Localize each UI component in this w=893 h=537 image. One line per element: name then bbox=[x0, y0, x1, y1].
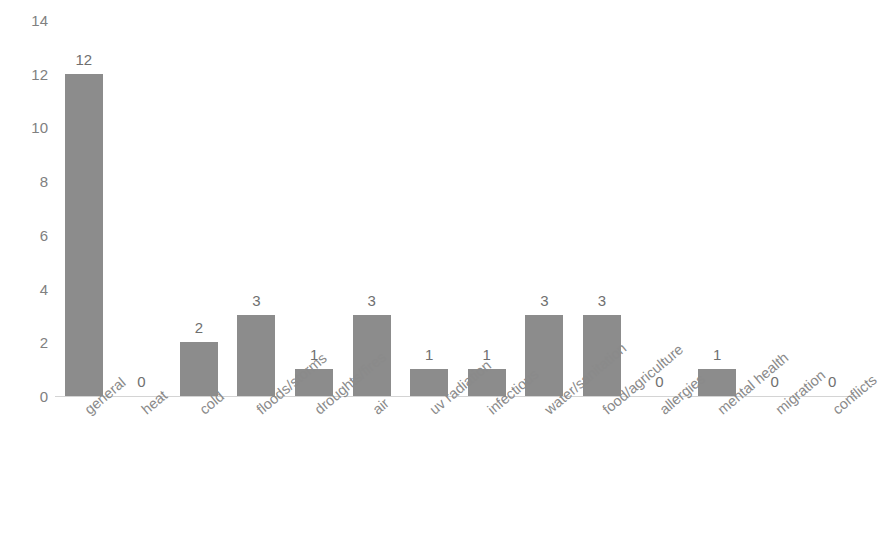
bar-group: 0 bbox=[631, 20, 689, 396]
bar-value-label: 12 bbox=[75, 52, 92, 67]
bar-value-label: 3 bbox=[252, 293, 260, 308]
bar-value-label: 3 bbox=[598, 293, 606, 308]
bar-chart: 02468101214 120231311330100 generalheatc… bbox=[0, 0, 893, 537]
y-axis-tick-label: 2 bbox=[4, 335, 48, 350]
bar-group: 0 bbox=[113, 20, 171, 396]
y-axis-tick-label: 6 bbox=[4, 227, 48, 242]
bar-group: 3 bbox=[228, 20, 286, 396]
bar-group: 2 bbox=[170, 20, 228, 396]
bar-series: 120231311330100 bbox=[55, 20, 861, 396]
x-axis-label-slot: allergies bbox=[631, 400, 689, 537]
x-axis-label-slot: food/agriculture bbox=[573, 400, 631, 537]
y-axis: 02468101214 bbox=[0, 0, 48, 537]
x-axis-label-slot: water/sanitation bbox=[516, 400, 574, 537]
bar-group: 0 bbox=[746, 20, 804, 396]
bar-group: 3 bbox=[516, 20, 574, 396]
bar[interactable] bbox=[65, 74, 103, 396]
x-axis-label-slot: conflicts bbox=[803, 400, 861, 537]
x-axis-label-slot: air bbox=[343, 400, 401, 537]
bar[interactable] bbox=[237, 315, 275, 396]
y-axis-tick-label: 0 bbox=[4, 389, 48, 404]
y-axis-tick-label: 12 bbox=[4, 66, 48, 81]
x-axis-category-labels: generalheatcoldfloods/stormsdroughts/fir… bbox=[55, 400, 861, 537]
bar-value-label: 1 bbox=[425, 347, 433, 362]
bar-value-label: 0 bbox=[137, 374, 145, 389]
x-axis-label-slot: cold bbox=[170, 400, 228, 537]
bar-value-label: 1 bbox=[713, 347, 721, 362]
y-axis-tick-label: 4 bbox=[4, 281, 48, 296]
x-axis-label-slot: droughts/fires bbox=[285, 400, 343, 537]
bar-value-label: 2 bbox=[195, 320, 203, 335]
x-axis-category-label: air bbox=[370, 396, 392, 417]
bar-value-label: 3 bbox=[367, 293, 375, 308]
bar-group: 1 bbox=[458, 20, 516, 396]
clipped-header-text bbox=[430, 0, 860, 6]
x-axis-label-slot: uv radiation bbox=[400, 400, 458, 537]
x-axis-label-slot: infectious bbox=[458, 400, 516, 537]
bar-group: 1 bbox=[400, 20, 458, 396]
x-axis-label-slot: mental health bbox=[688, 400, 746, 537]
x-axis-label-slot: heat bbox=[113, 400, 171, 537]
y-axis-tick-label: 10 bbox=[4, 120, 48, 135]
x-axis-label-slot: floods/storms bbox=[228, 400, 286, 537]
bar-group: 12 bbox=[55, 20, 113, 396]
bar-value-label: 0 bbox=[828, 374, 836, 389]
bar-group: 1 bbox=[285, 20, 343, 396]
bar-group: 1 bbox=[688, 20, 746, 396]
bar-group: 3 bbox=[343, 20, 401, 396]
bar[interactable] bbox=[180, 342, 218, 396]
x-axis-label-slot: general bbox=[55, 400, 113, 537]
bar-group: 0 bbox=[803, 20, 861, 396]
y-axis-tick-label: 14 bbox=[4, 13, 48, 28]
y-axis-tick-label: 8 bbox=[4, 174, 48, 189]
bar-value-label: 3 bbox=[540, 293, 548, 308]
x-axis-label-slot: migration bbox=[746, 400, 804, 537]
bar-group: 3 bbox=[573, 20, 631, 396]
